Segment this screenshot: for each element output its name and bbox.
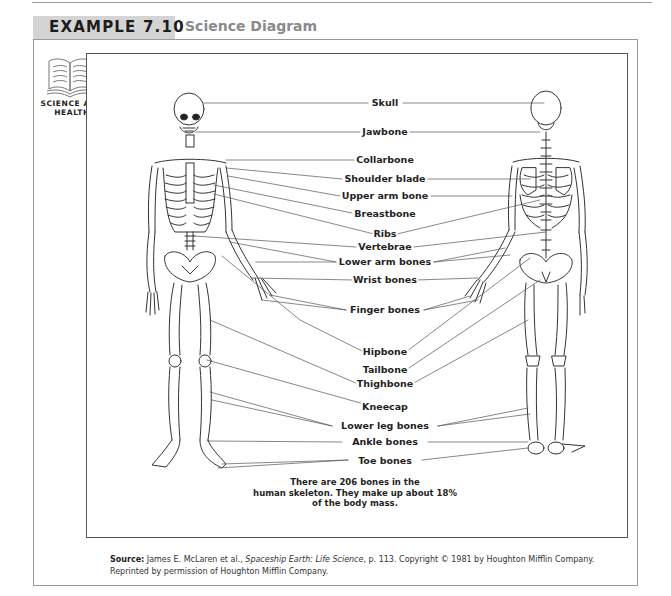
label-breastbone: Breastbone [353,208,417,219]
label-lower-arm-bones: Lower arm bones [338,256,432,267]
front-skeleton [146,93,276,468]
label-collarbone: Collarbone [355,154,415,165]
label-kneecap: Kneecap [361,401,409,412]
source-citation: Source: James E. McLaren et al., Spacesh… [110,554,655,578]
label-tailbone: Tailbone [362,364,409,375]
label-shoulder-blade: Shoulder blade [343,173,426,184]
label-finger-bones: Finger bones [349,304,421,315]
label-vertebrae: Vertebrae [357,241,412,252]
label-skull: Skull [371,97,399,108]
label-ribs: Ribs [372,228,397,239]
label-thighbone: Thighbone [356,378,415,389]
source-details: , p. 113. Copyright © 1981 by Houghton M… [363,555,594,564]
source-line-1: Source: James E. McLaren et al., Spacesh… [110,554,655,566]
label-lower-leg-bones: Lower leg bones [340,420,430,431]
caption-line-2: human skeleton. They make up about 18% [230,488,480,499]
source-book-title: Spaceship Earth: Life Science [245,555,363,564]
caption-line-1: There are 206 bones in the [230,477,480,488]
back-skeleton [465,91,587,454]
label-ankle-bones: Ankle bones [351,436,419,447]
source-label: Source: [110,555,144,564]
source-authors: James E. McLaren et al., [144,555,245,564]
label-upper-arm-bone: Upper arm bone [341,190,430,201]
label-jawbone: Jawbone [361,126,408,137]
source-line-2: Reprinted by permission of Houghton Miff… [110,566,655,578]
label-hipbone: Hipbone [362,346,409,357]
caption-line-3: of the body mass. [230,498,480,509]
label-wrist-bones: Wrist bones [352,274,418,285]
diagram-caption: There are 206 bones in the human skeleto… [230,477,480,509]
label-toe-bones: Toe bones [357,455,413,466]
